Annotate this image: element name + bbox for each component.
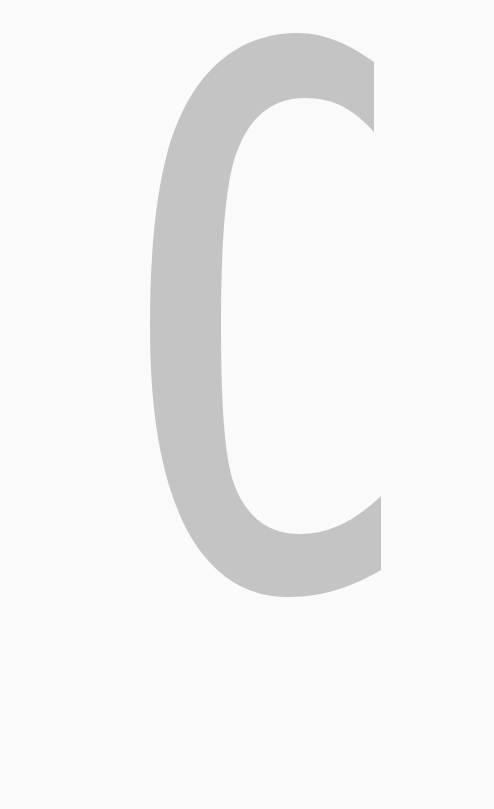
letter-c-glyph [0,0,494,809]
canvas: C [0,0,494,809]
letter-c-shape [150,33,381,597]
